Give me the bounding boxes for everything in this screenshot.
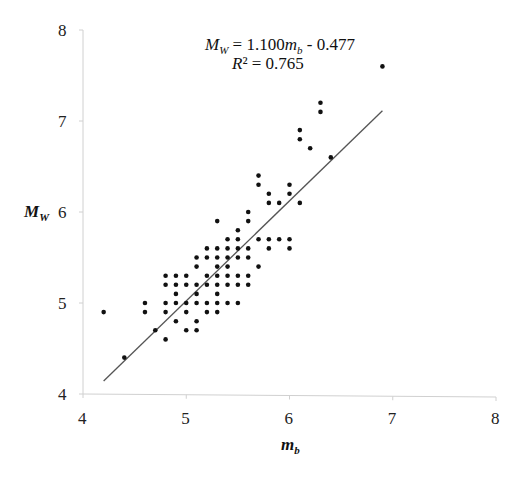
data-point [184, 328, 189, 333]
data-point [236, 301, 241, 306]
data-point [184, 283, 189, 288]
data-point [287, 246, 292, 251]
data-point [246, 273, 251, 278]
data-point [225, 301, 230, 306]
data-point [205, 246, 210, 251]
data-point [194, 264, 199, 269]
regression-line [104, 111, 383, 381]
data-point [194, 255, 199, 260]
data-point [236, 255, 241, 260]
x-tick-label: 8 [491, 409, 500, 428]
data-point [184, 310, 189, 315]
data-point [287, 182, 292, 187]
data-point [174, 301, 179, 306]
data-point [329, 155, 334, 160]
y-axis-label: MW [23, 202, 50, 223]
data-point [143, 301, 148, 306]
data-point [225, 283, 230, 288]
equation-annotation: MW = 1.100mb - 0.477 [204, 35, 355, 56]
data-point [256, 182, 261, 187]
data-point [225, 237, 230, 242]
data-point [194, 283, 199, 288]
data-point [380, 64, 385, 69]
data-point [246, 246, 251, 251]
data-point [194, 319, 199, 324]
data-point [194, 328, 199, 333]
data-point [308, 146, 313, 151]
data-point [163, 310, 168, 315]
data-point [277, 237, 282, 242]
data-point [194, 301, 199, 306]
data-point [205, 310, 210, 315]
data-point [215, 255, 220, 260]
data-point [236, 283, 241, 288]
y-axis-ticks: 45678 [58, 21, 83, 404]
data-point [174, 273, 179, 278]
data-point [101, 310, 106, 315]
data-point [287, 192, 292, 197]
y-tick-label: 7 [58, 112, 67, 131]
data-point [236, 246, 241, 251]
scatter-chart: 45678 45678 MW = 1.100mb - 0.477 R² = 0.… [0, 0, 530, 483]
x-tick-label: 5 [181, 409, 190, 428]
data-point [225, 273, 230, 278]
data-point [215, 246, 220, 251]
y-tick-label: 5 [58, 294, 67, 313]
y-tick-label: 8 [58, 21, 67, 40]
data-point [225, 255, 230, 260]
data-point [225, 264, 230, 269]
data-point [215, 219, 220, 224]
data-point [256, 173, 261, 178]
data-point [287, 237, 292, 242]
x-tick-label: 6 [285, 409, 294, 428]
data-point [267, 246, 272, 251]
data-point [205, 283, 210, 288]
data-point [184, 273, 189, 278]
y-tick-label: 6 [58, 203, 67, 222]
data-point [215, 283, 220, 288]
data-point [205, 301, 210, 306]
data-point [163, 273, 168, 278]
x-axis-ticks: 45678 [78, 394, 500, 428]
data-point [298, 201, 303, 206]
data-point [163, 301, 168, 306]
data-point [163, 283, 168, 288]
data-point [318, 110, 323, 115]
x-tick-label: 4 [78, 409, 87, 428]
r-squared-annotation: R² = 0.765 [231, 54, 304, 73]
data-point [205, 255, 210, 260]
data-point [163, 337, 168, 342]
data-point [174, 283, 179, 288]
data-point [215, 310, 220, 315]
data-point [298, 137, 303, 142]
data-point [246, 283, 251, 288]
data-point [174, 319, 179, 324]
data-point [246, 255, 251, 260]
data-point [236, 273, 241, 278]
data-point [215, 292, 220, 297]
data-point [318, 101, 323, 106]
data-points [101, 64, 384, 360]
data-point [215, 264, 220, 269]
data-point [194, 292, 199, 297]
data-point [225, 246, 230, 251]
x-tick-label: 7 [388, 409, 397, 428]
data-point [246, 219, 251, 224]
data-point [122, 355, 127, 360]
data-point [256, 264, 261, 269]
data-point [298, 128, 303, 133]
data-point [215, 273, 220, 278]
data-point [205, 273, 210, 278]
data-point [256, 237, 261, 242]
data-point [277, 201, 282, 206]
data-point [184, 301, 189, 306]
x-axis-label: mb [281, 435, 300, 456]
data-point [267, 237, 272, 242]
data-point [267, 201, 272, 206]
y-tick-label: 4 [58, 385, 67, 404]
data-point [153, 328, 158, 333]
data-point [174, 292, 179, 297]
data-point [236, 228, 241, 233]
data-point [143, 310, 148, 315]
data-point [236, 237, 241, 242]
